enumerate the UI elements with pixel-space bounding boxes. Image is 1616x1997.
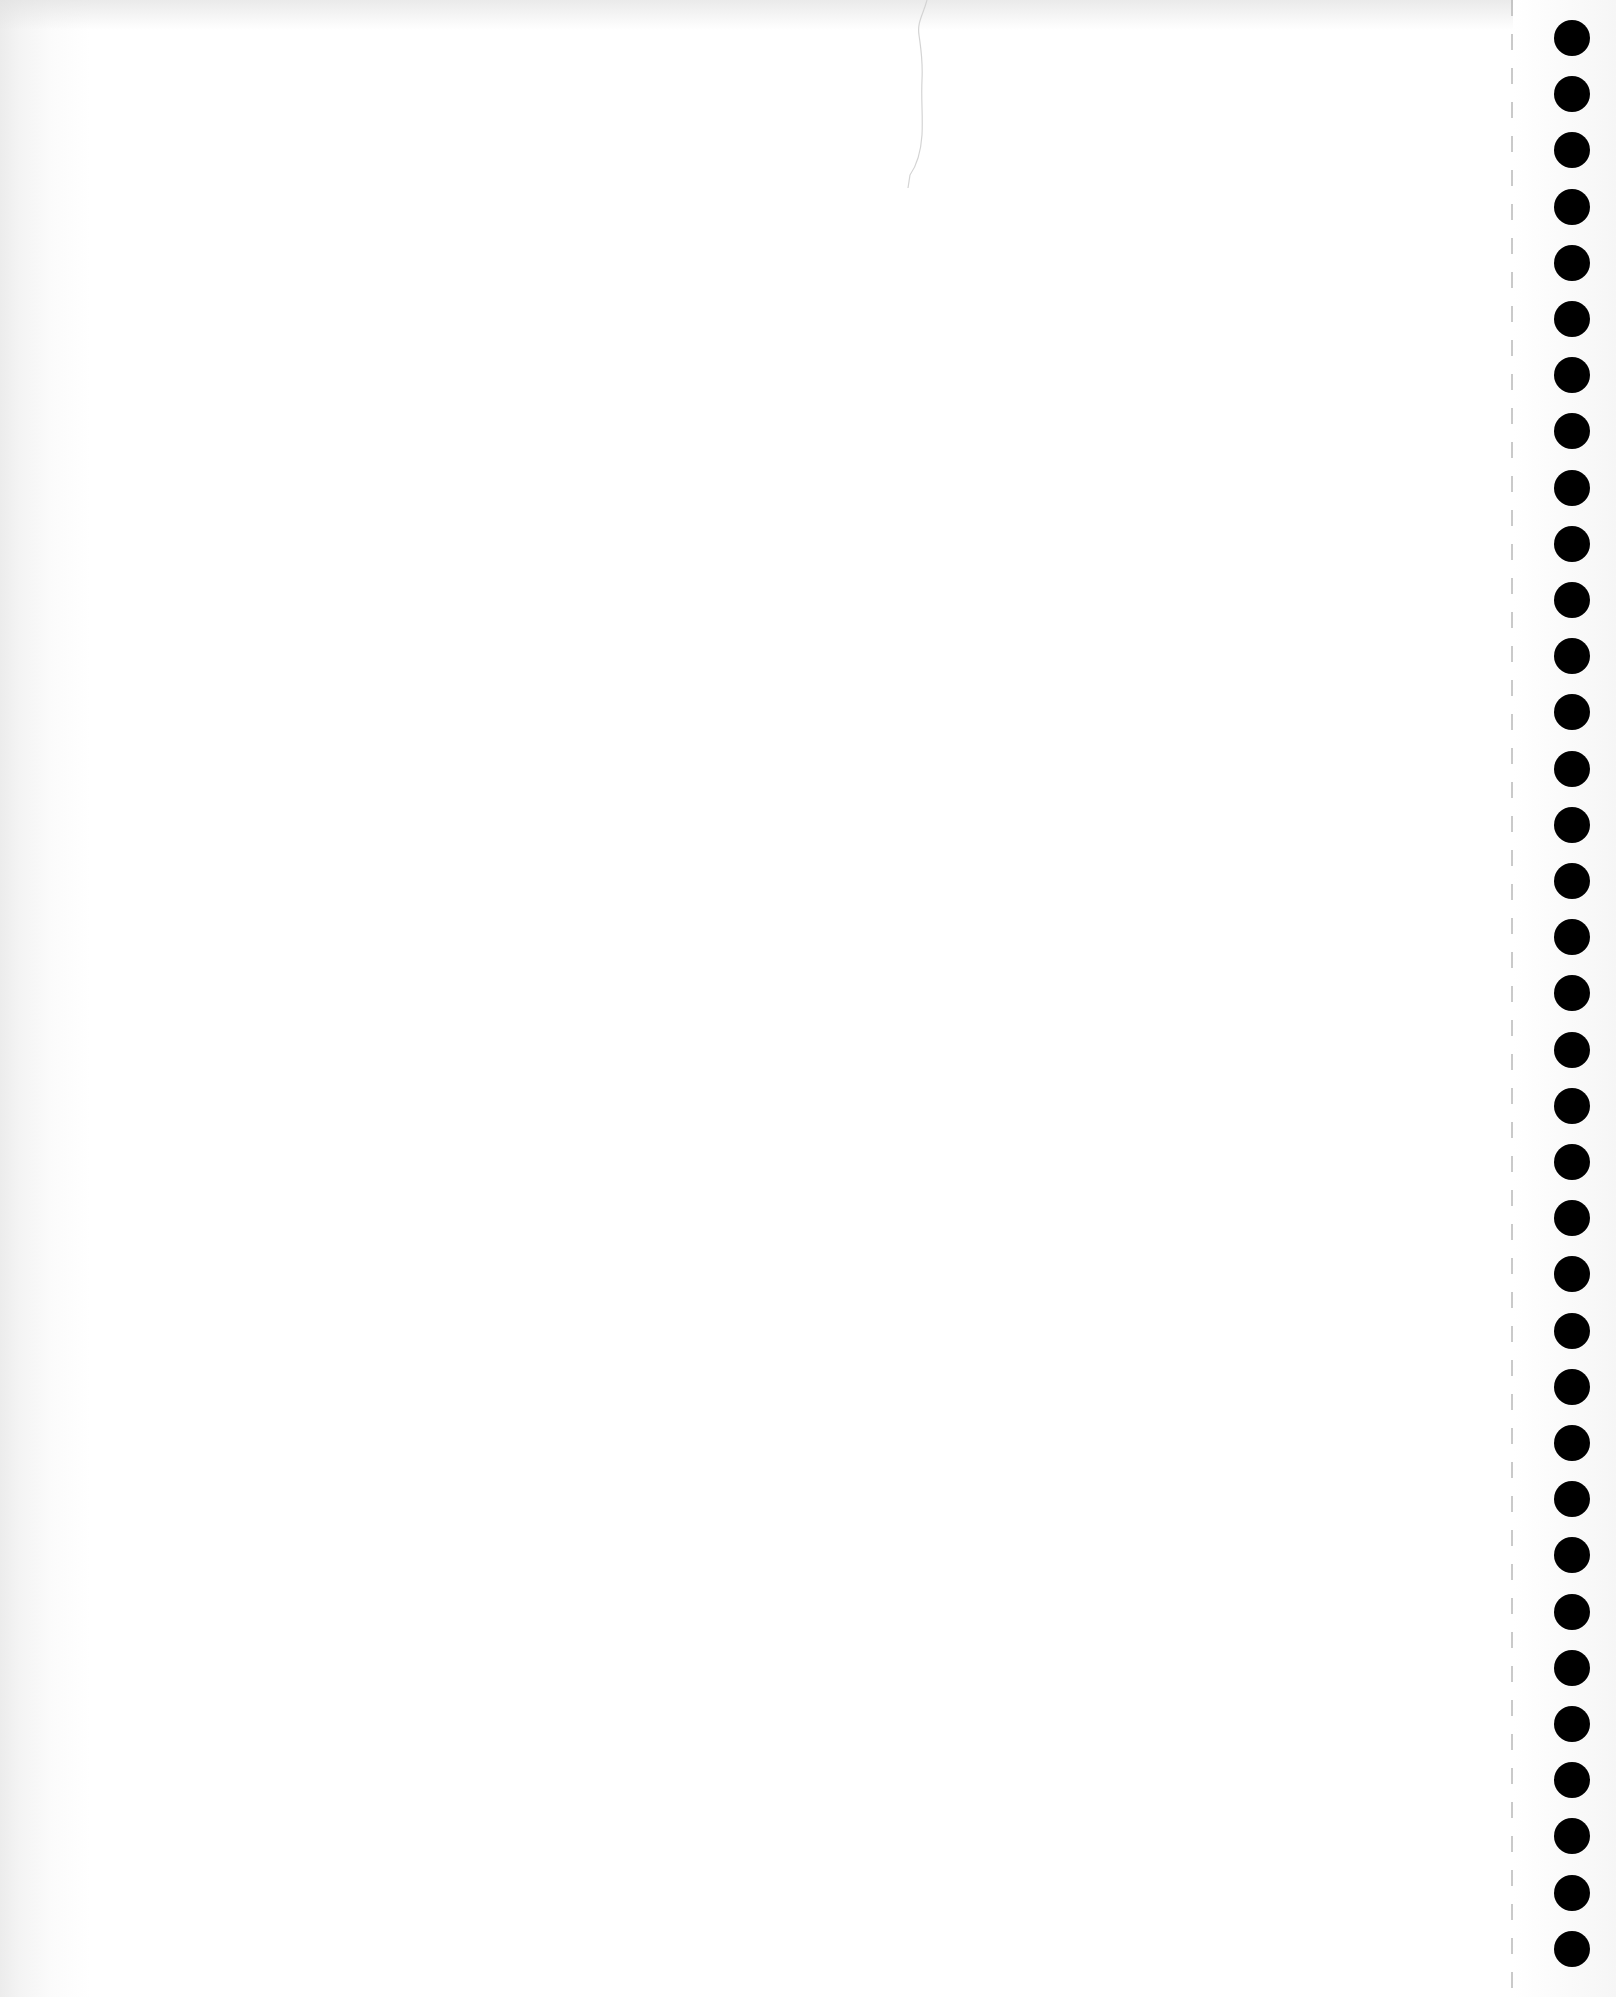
- punch-hole-icon: [1554, 1481, 1590, 1517]
- punch-hole-icon: [1554, 1032, 1590, 1068]
- punch-hole-icon: [1554, 638, 1590, 674]
- punch-hole-icon: [1554, 1762, 1590, 1798]
- punch-hole-icon: [1554, 1875, 1590, 1911]
- punch-hole-icon: [1554, 863, 1590, 899]
- punch-hole-icon: [1554, 1088, 1590, 1124]
- scan-top-shadow: [0, 0, 1616, 30]
- punch-hole-icon: [1554, 301, 1590, 337]
- punch-hole-icon: [1554, 20, 1590, 56]
- punch-hole-icon: [1554, 1200, 1590, 1236]
- punch-hole-icon: [1554, 1313, 1590, 1349]
- punch-hole-icon: [1554, 1650, 1590, 1686]
- punch-hole-icon: [1554, 76, 1590, 112]
- punch-hole-icon: [1554, 582, 1590, 618]
- paper-fiber-mark: [905, 0, 945, 190]
- punch-hole-icon: [1554, 1706, 1590, 1742]
- punch-hole-icon: [1554, 189, 1590, 225]
- punch-hole-icon: [1554, 1931, 1590, 1967]
- punch-hole-icon: [1554, 1594, 1590, 1630]
- punch-hole-icon: [1554, 807, 1590, 843]
- perforation-line: [1511, 0, 1513, 1997]
- punch-hole-icon: [1554, 470, 1590, 506]
- punch-hole-icon: [1554, 1369, 1590, 1405]
- punch-hole-icon: [1554, 1144, 1590, 1180]
- paper-sheet: [0, 0, 1616, 1997]
- punch-hole-icon: [1554, 751, 1590, 787]
- punch-hole-icon: [1554, 245, 1590, 281]
- punch-hole-icon: [1554, 357, 1590, 393]
- punch-hole-icon: [1554, 526, 1590, 562]
- punch-hole-icon: [1554, 1425, 1590, 1461]
- punch-hole-icon: [1554, 919, 1590, 955]
